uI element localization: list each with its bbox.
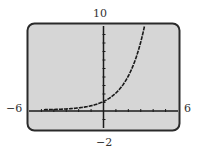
calculator-graph <box>0 0 199 153</box>
